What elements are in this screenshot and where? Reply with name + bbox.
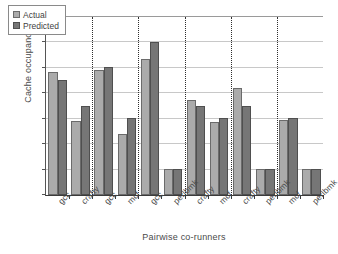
legend-entry-predicted: Predicted: [13, 20, 59, 31]
group-separators: [46, 17, 323, 195]
group-separator: [138, 17, 139, 195]
group-separator: [92, 17, 93, 195]
group-separator: [277, 17, 278, 195]
x-axis-title: Pairwise co-runners: [45, 232, 323, 242]
x-axis-tick-labels: gcccraftygccmcfgccperlbmkcraftymcfcrafty…: [45, 196, 323, 236]
legend: Actual Predicted: [8, 5, 66, 35]
group-separator: [231, 17, 232, 195]
group-separator: [185, 17, 186, 195]
plot-area: 00.511.522.533.5: [45, 17, 323, 196]
legend-swatch-actual: [13, 11, 20, 18]
legend-entry-actual: Actual: [13, 9, 59, 20]
legend-label-actual: Actual: [23, 10, 47, 20]
legend-label-predicted: Predicted: [23, 21, 59, 31]
legend-swatch-predicted: [13, 22, 20, 29]
